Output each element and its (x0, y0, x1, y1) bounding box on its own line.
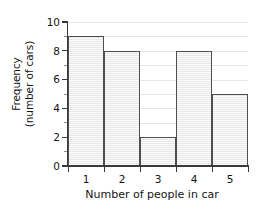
y-axis-tick (62, 137, 67, 138)
y-axis-tick-label: 2 (20, 132, 60, 143)
bar-chart: Frequency (number of cars) 0246810 12345… (0, 0, 278, 210)
bar (212, 94, 248, 166)
bar (68, 36, 104, 166)
y-axis-tick-label: 10 (20, 17, 60, 28)
x-axis-tick-label: 4 (182, 174, 206, 185)
x-axis-tick-label: 5 (218, 174, 242, 185)
y-axis-minor-tick (64, 65, 68, 66)
x-axis-tick-label: 3 (146, 174, 170, 185)
y-axis-tick (62, 108, 67, 109)
y-axis-tick (62, 21, 67, 22)
y-axis-tick-label: 6 (20, 74, 60, 85)
y-axis-minor-tick (64, 151, 68, 152)
x-axis-title: Number of people in car (40, 188, 264, 201)
y-axis-tick (62, 79, 67, 80)
y-axis-tick-label: 0 (20, 161, 60, 172)
y-axis-tick-label: 4 (20, 103, 60, 114)
x-axis-tick-label: 1 (74, 174, 98, 185)
y-axis-tick (62, 50, 67, 51)
bar (104, 51, 140, 166)
plot-area (68, 22, 248, 166)
x-axis-tick-label: 2 (110, 174, 134, 185)
x-axis-tick (68, 167, 69, 172)
x-axis-tick (248, 167, 249, 172)
y-axis-minor-tick (64, 122, 68, 123)
y-axis-minor-tick (64, 36, 68, 37)
y-axis-tick (62, 165, 67, 166)
y-axis-tick-label: 8 (20, 46, 60, 57)
x-axis-tick (176, 167, 177, 172)
y-axis-minor-tick (64, 94, 68, 95)
bar (140, 137, 176, 166)
gridline (68, 22, 248, 23)
x-axis-tick (212, 167, 213, 172)
x-axis-tick (104, 167, 105, 172)
x-axis-line (67, 165, 249, 167)
bar (176, 51, 212, 166)
x-axis-tick (140, 167, 141, 172)
